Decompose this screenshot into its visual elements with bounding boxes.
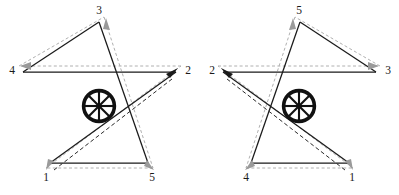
vertex-label-bottom-left: 4 — [243, 171, 249, 183]
arrowhead-to-5 — [289, 18, 296, 30]
vertex-label-bottom-right: 5 — [149, 171, 155, 183]
vertex-label-left: 4 — [9, 64, 15, 76]
arrowhead-to-3 — [368, 62, 379, 70]
traversal-dash-right — [227, 79, 345, 170]
panel-left-canvas: 3 2 5 1 4 — [0, 0, 199, 195]
pentagram-figure: 3 2 5 1 4 — [0, 0, 399, 195]
arrowhead-to-3 — [103, 18, 110, 30]
panel-right: 5 3 1 4 2 — [200, 0, 399, 195]
wheel-icon — [84, 91, 115, 122]
vertex-label-right: 2 — [185, 64, 191, 76]
arrowhead-to-4 — [20, 62, 31, 70]
vertex-label-apex: 3 — [96, 4, 102, 16]
panel-left: 3 2 5 1 4 — [0, 0, 199, 195]
traversal-dash-left — [54, 79, 172, 170]
vertex-label-apex: 5 — [296, 4, 302, 16]
vertex-label-bottom-right: 1 — [349, 171, 355, 183]
vertex-label-left: 2 — [209, 64, 215, 76]
panel-right-canvas: 5 3 1 4 2 — [200, 0, 399, 195]
vertex-label-bottom-left: 1 — [43, 171, 49, 183]
wheel-icon — [284, 91, 315, 122]
vertex-label-right: 3 — [385, 64, 391, 76]
